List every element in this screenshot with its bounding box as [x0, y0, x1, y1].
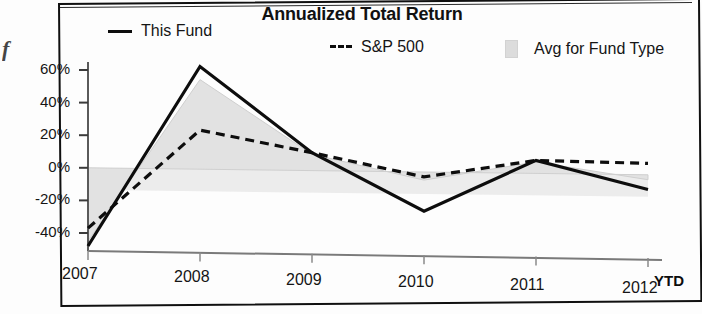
x-axis-tick-label: 2011 — [510, 276, 544, 294]
scanned-chart-page: f Annualized Total Return This Fund S&P … — [0, 0, 702, 314]
plot-svg — [0, 0, 702, 314]
x-axis-line — [88, 251, 662, 260]
x-axis-tick-label: 2012 — [622, 279, 658, 297]
plot-area — [0, 0, 702, 314]
y-axis-tick-label: 20% — [14, 125, 70, 142]
x-axis-tick-label: 2007 — [62, 265, 98, 283]
y-axis-tick-label: 0% — [14, 158, 70, 175]
x-axis-tick-label: 2008 — [174, 268, 210, 286]
y-axis-tick-label: -40% — [14, 223, 70, 240]
y-axis-tick-label: -20% — [14, 190, 70, 207]
y-axis-tick-label: 40% — [14, 93, 70, 110]
x-axis-tick-label: 2010 — [398, 273, 434, 291]
y-axis-ticks — [79, 70, 88, 233]
x-axis-tick-label: 2009 — [286, 271, 322, 289]
x-axis-ytd-note: YTD — [654, 272, 684, 289]
y-axis-tick-label: 60% — [14, 60, 70, 77]
